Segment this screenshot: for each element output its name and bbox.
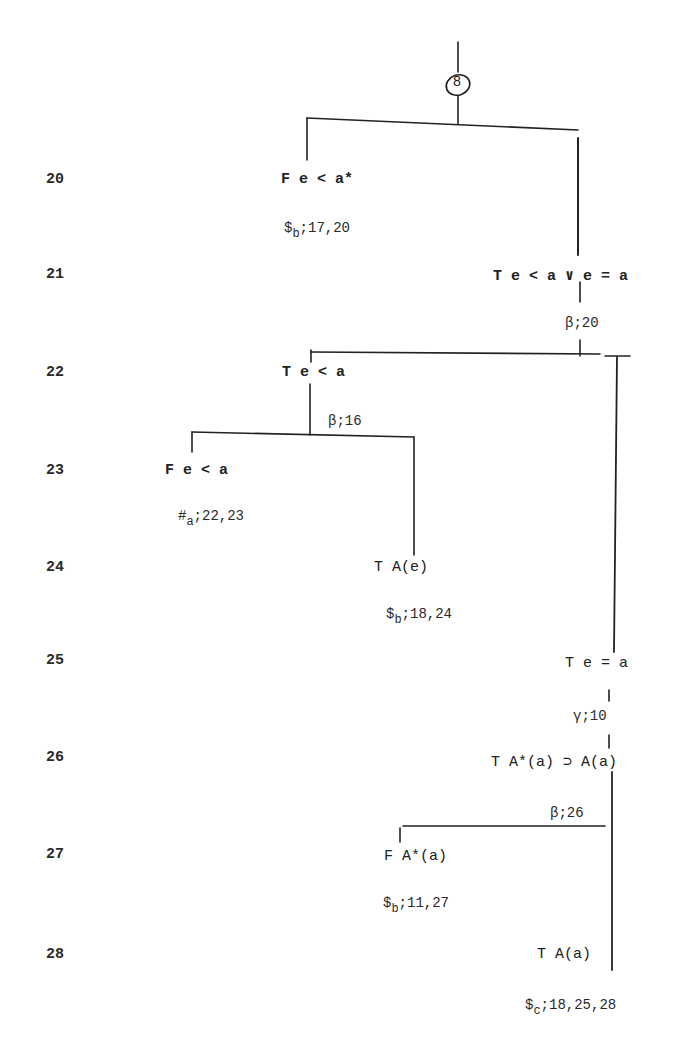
- formula-node-20: F e < a*: [281, 171, 353, 188]
- formula-node-23: F e < a: [165, 462, 228, 479]
- line-number: 20: [46, 171, 64, 188]
- edge-split-22: [192, 432, 414, 437]
- line-number: 28: [46, 946, 64, 963]
- formula-node-28: T A(a): [537, 946, 591, 963]
- line-number: 25: [46, 652, 64, 669]
- justification-24: $b;18,24: [386, 606, 452, 627]
- formula-node-24: T A(e): [374, 559, 428, 576]
- line-number: 24: [46, 559, 64, 576]
- branch-marker: 8: [443, 72, 471, 96]
- branch-marker-label: 8: [443, 74, 471, 90]
- line-number: 23: [46, 462, 64, 479]
- line-number: 27: [46, 846, 64, 863]
- line-number: 26: [46, 749, 64, 766]
- tree-edges: [0, 0, 695, 1060]
- line-number: 22: [46, 364, 64, 381]
- formula-node-22: T e < a: [282, 364, 345, 381]
- formula-node-27: F A*(a): [384, 848, 447, 865]
- justification-22: β;16: [328, 413, 362, 429]
- line-number: 21: [46, 266, 64, 283]
- justification-26: β;26: [550, 805, 584, 821]
- justification-21: β;20: [565, 315, 599, 331]
- edge-split-8: [307, 118, 578, 130]
- formula-node-26: T A*(a) ⊃ A(a): [491, 752, 617, 771]
- edge-split-21: [311, 352, 600, 354]
- formula-node-21: T e < a ∨ e = a: [493, 266, 628, 285]
- formula-node-25: T e = a: [565, 655, 628, 672]
- justification-23: #a;22,23: [178, 508, 244, 529]
- justification-20: $b;17,20: [284, 220, 350, 241]
- justification-27: $b;11,27: [383, 895, 449, 916]
- justification-28: $c;18,25,28: [525, 997, 616, 1018]
- justification-25: γ;10: [573, 708, 607, 724]
